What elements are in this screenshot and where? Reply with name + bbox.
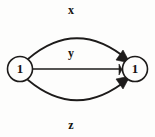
edge-z: z	[28, 76, 130, 132]
edge-x-label: x	[68, 3, 74, 17]
graph-diagram: x y z 1 1	[0, 0, 155, 137]
edge-x-path	[28, 38, 128, 60]
edge-x: x	[28, 3, 130, 63]
edge-z-path	[28, 79, 128, 100]
node-target-label: 1	[132, 61, 139, 76]
node-source-label: 1	[17, 61, 24, 76]
graph-canvas: x y z 1 1	[0, 0, 155, 137]
edge-y-arrowhead	[119, 64, 122, 75]
node-target: 1	[123, 57, 148, 82]
edge-y-label: y	[68, 46, 74, 60]
edge-y: y	[33, 46, 122, 75]
edge-z-label: z	[68, 118, 74, 132]
node-source: 1	[8, 57, 33, 82]
